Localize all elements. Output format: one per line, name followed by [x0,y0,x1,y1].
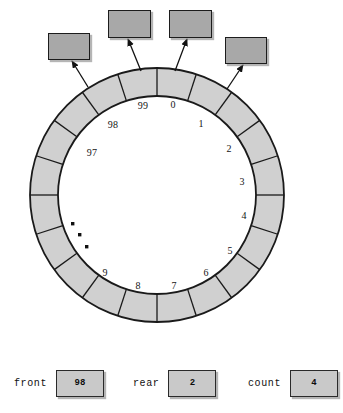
ellipsis-dot [78,233,81,236]
ring-slot-label: 3 [239,176,244,187]
callout-box[interactable] [48,33,90,60]
callout-box[interactable] [169,10,212,38]
status-value-box-count[interactable]: 4 [290,370,338,397]
callout-box[interactable] [108,10,151,38]
status-value-count: 4 [311,378,316,388]
ring-slot-label: 99 [138,100,148,111]
status-item-front: front98 [14,365,104,401]
ring-slot-label: 1 [198,118,203,129]
ring-slot-label: 2 [226,143,231,154]
status-item-rear: rear2 [133,365,216,401]
ring-slot-label: 97 [87,147,97,158]
status-label-count: count [248,378,281,389]
ring-band-fill [30,68,284,322]
callout-arrow [72,61,88,87]
ring-slot-label: 4 [241,210,246,221]
callout-box[interactable] [225,37,267,64]
status-item-count: count4 [248,365,338,401]
callout-arrow [128,39,141,71]
ellipsis-dot [85,245,88,248]
status-label-rear: rear [133,378,159,389]
status-value-box-front[interactable]: 98 [56,370,104,397]
ring-slot-label: 7 [171,280,176,291]
status-label-front: front [14,378,47,389]
ring-slot-label: 6 [203,267,208,278]
ring-inner-circle [58,96,256,294]
ring-slot-label: 8 [135,280,140,291]
ellipsis-dot [71,222,74,225]
callout-arrow [227,65,243,89]
callout-arrow [175,39,187,71]
ring-slot-label: 9 [102,267,107,278]
status-row: front98rear2count4 [0,365,343,405]
status-value-box-rear[interactable]: 2 [168,370,216,397]
ring-graphic [0,0,343,413]
ring-slot-label: 98 [108,119,118,130]
status-value-front: 98 [75,378,86,388]
ring-slot-label: 0 [170,99,175,110]
ring-buffer-diagram: 0123456789979899 front98rear2count4 [0,0,343,413]
status-value-rear: 2 [190,378,195,388]
ring-slot-label: 5 [227,245,232,256]
